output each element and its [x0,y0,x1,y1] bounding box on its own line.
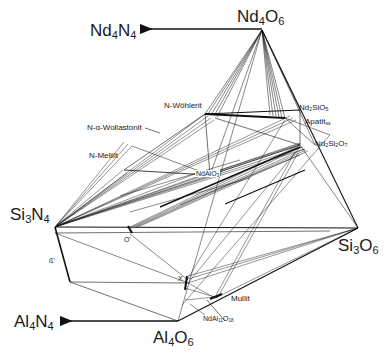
phase-label-mullit: Mullit [231,295,250,303]
phase-label-apatit-ss: Apatitss [305,118,331,126]
corner-label-si3o6: Si3O6 [338,237,379,254]
phase-label-x: X [178,275,183,282]
phase-label-ndal11o18: NdAl11O18 [203,315,233,322]
corner-label-al4n4: Al4N4 [14,313,54,330]
corner-label-nd4n4: Nd4N4 [90,22,136,39]
phase-label-nd2si2o7: Nd2Si2O7 [315,140,347,148]
phase-label-ndalo3: NdAlO3 [195,170,220,177]
phase-label-beta-prime: ß' [49,257,55,264]
phase-label-n-alpha-wollastonit: N-α-Wollastonit [87,124,142,132]
phase-label-nd2sio5: Nd2SiO5 [299,104,328,112]
phase-label-n-melilit: N-Melilit [89,152,118,160]
corner-label-si3n4: Si3N4 [10,206,50,223]
phase-diagram-prism [0,0,387,358]
phase-label-n-wohlerit: N-Wöhlerit [164,102,202,110]
corner-label-al4o6: Al4O6 [153,329,194,346]
corner-label-nd4o6: Nd4O6 [237,8,284,25]
phase-label-o-prime: O' [124,236,131,243]
